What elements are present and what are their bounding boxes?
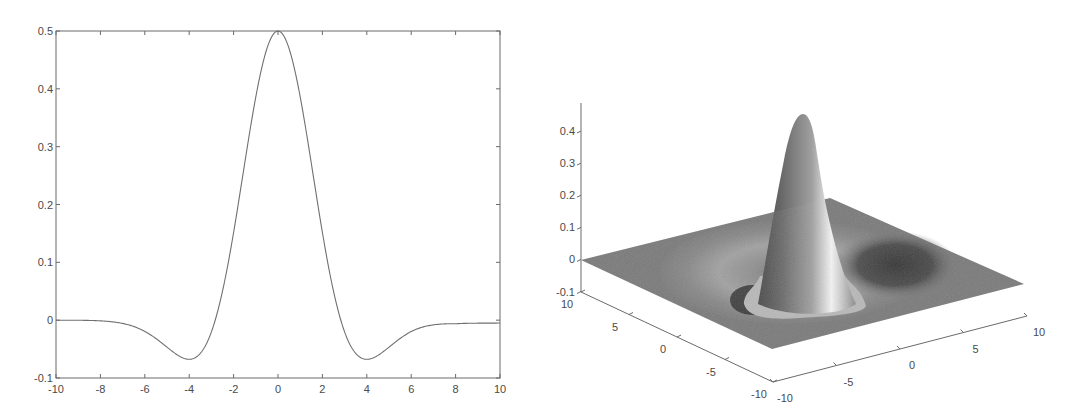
left-depth-tick bbox=[725, 358, 729, 360]
x-tick-label: 10 bbox=[494, 383, 506, 395]
left-depth-tick bbox=[581, 290, 585, 292]
x-tick-label: 8 bbox=[453, 383, 459, 395]
right-depth-tick bbox=[897, 346, 900, 349]
left-depth-tick-label: 10 bbox=[561, 298, 573, 310]
y-tick-label: 0.4 bbox=[38, 83, 53, 95]
y-tick-label: 0.3 bbox=[38, 141, 53, 153]
x-tick-label: 0 bbox=[275, 383, 281, 395]
left-depth-tick-label: -10 bbox=[751, 388, 767, 400]
left-depth-tick bbox=[629, 313, 633, 315]
x-tick-label: -8 bbox=[96, 383, 106, 395]
right-depth-tick-label: 0 bbox=[909, 359, 915, 371]
left-depth-tick bbox=[677, 335, 681, 337]
left-depth-tick-label: -5 bbox=[706, 366, 716, 378]
z-tick-label: 0 bbox=[569, 253, 575, 265]
y-tick-label: 0.5 bbox=[38, 25, 53, 37]
x-tick-label: 2 bbox=[319, 383, 325, 395]
z-tick bbox=[577, 227, 581, 229]
z-tick-label: 0.2 bbox=[560, 189, 575, 201]
right-depth-tick bbox=[1024, 313, 1027, 316]
left-depth-tick-label: 5 bbox=[612, 321, 618, 333]
z-tick bbox=[577, 163, 581, 165]
x-tick-label: 4 bbox=[364, 383, 370, 395]
line-plot: -10-8-6-4-20246810 -0.100.10.20.30.40.5 bbox=[34, 25, 506, 395]
x-tick-label: -6 bbox=[140, 383, 150, 395]
x-tick-label: -10 bbox=[48, 383, 64, 395]
x-axis: -10-8-6-4-20246810 bbox=[48, 31, 506, 395]
x-tick-label: -2 bbox=[229, 383, 239, 395]
y-axis: -0.100.10.20.30.40.5 bbox=[34, 25, 500, 384]
y-tick-label: 0 bbox=[47, 314, 53, 326]
chart-canvas: -10-8-6-4-20246810 -0.100.10.20.30.40.5 … bbox=[0, 0, 1077, 419]
z-tick-label: -0.1 bbox=[556, 286, 575, 298]
y-tick-label: -0.1 bbox=[34, 372, 53, 384]
x-tick-label: 6 bbox=[408, 383, 414, 395]
surface-plot: -0.100.10.20.30.4 1050-5-10 -10-50510 bbox=[556, 103, 1045, 404]
right-depth-tick-label: -10 bbox=[777, 392, 793, 404]
surface-texture bbox=[581, 198, 1024, 349]
y-tick-label: 0.2 bbox=[38, 199, 53, 211]
right-depth-tick-label: 5 bbox=[972, 343, 978, 355]
z-tick bbox=[577, 292, 581, 294]
z-tick bbox=[577, 259, 581, 261]
z-tick-label: 0.4 bbox=[560, 125, 575, 137]
z-tick bbox=[577, 195, 581, 197]
z-tick bbox=[577, 131, 581, 133]
plot-frame bbox=[56, 31, 500, 378]
data-curve bbox=[56, 31, 500, 359]
right-depth-tick-label: -5 bbox=[844, 376, 854, 388]
right-depth-tick bbox=[834, 363, 837, 366]
x-tick-label: -4 bbox=[184, 383, 194, 395]
z-tick-label: 0.3 bbox=[560, 157, 575, 169]
right-depth-tick-label: 10 bbox=[1033, 326, 1045, 338]
y-tick-label: 0.1 bbox=[38, 256, 53, 268]
z-axis: -0.100.10.20.30.4 bbox=[556, 125, 581, 298]
left-depth-tick-label: 0 bbox=[660, 343, 666, 355]
right-depth-tick bbox=[961, 330, 964, 333]
z-tick-label: 0.1 bbox=[560, 221, 575, 233]
